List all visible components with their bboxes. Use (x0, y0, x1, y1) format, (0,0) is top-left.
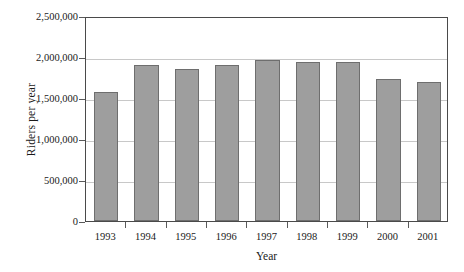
bar (94, 92, 118, 221)
y-axis-tick-label: 1,000,000 (0, 135, 78, 145)
x-axis-tick-label: 2001 (408, 231, 448, 243)
x-axis-tick-mark (125, 222, 126, 228)
x-axis-tick-mark (327, 222, 328, 228)
bar (376, 79, 400, 221)
x-axis-tick-mark (367, 222, 368, 228)
bar (175, 69, 199, 221)
y-axis-tick-label: 2,000,000 (0, 53, 78, 63)
y-axis-tick-label: 1,500,000 (0, 94, 78, 104)
plot-area (85, 17, 448, 222)
x-axis-title: Year (85, 249, 448, 263)
x-axis-tick-label: 1993 (85, 231, 125, 243)
bar-chart: Riders per year 0500,0001,000,0001,500,0… (0, 0, 464, 272)
x-axis-tick-label: 1994 (125, 231, 165, 243)
bar (296, 62, 320, 221)
x-axis-tick-mark (166, 222, 167, 228)
bar (255, 60, 279, 221)
x-axis-tick-label: 2000 (367, 231, 407, 243)
bars-layer (86, 18, 447, 221)
y-axis-tick-mark (79, 222, 85, 223)
y-axis-tick-label: 0 (0, 217, 78, 227)
bar (417, 82, 441, 221)
x-axis-tick-label: 1997 (246, 231, 286, 243)
y-axis-tick-label: 500,000 (0, 176, 78, 186)
x-axis-tick-mark (287, 222, 288, 228)
x-axis-tick-mark (206, 222, 207, 228)
y-axis-tick-label: 2,500,000 (0, 12, 78, 22)
x-axis-tick-mark (408, 222, 409, 228)
bar (215, 65, 239, 221)
x-axis-tick-label: 1999 (327, 231, 367, 243)
bar (336, 62, 360, 221)
x-axis-tick-label: 1998 (287, 231, 327, 243)
x-axis-tick-label: 1995 (166, 231, 206, 243)
y-axis-tick-labels: 0500,0001,000,0001,500,0002,000,0002,500… (0, 0, 78, 272)
bar (134, 65, 158, 221)
x-axis-tick-mark (246, 222, 247, 228)
x-axis-tick-label: 1996 (206, 231, 246, 243)
